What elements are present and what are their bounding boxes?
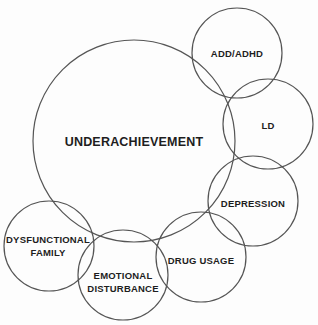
label-line: FAMILY: [6, 246, 90, 259]
depression-label: DEPRESSION: [221, 197, 285, 210]
label-line: UNDERACHIEVEMENT: [65, 135, 204, 149]
label-line: LD: [261, 119, 274, 132]
label-line: ADD/ADHD: [211, 47, 263, 60]
emotional-disturbance-label: EMOTIONAL DISTURBANCE: [87, 269, 158, 295]
underachievement-label: UNDERACHIEVEMENT: [65, 135, 204, 149]
dysfunctional-family-label: DYSFUNCTIONAL FAMILY: [6, 233, 90, 259]
label-line: DISTURBANCE: [87, 282, 158, 295]
label-line: DRUG USAGE: [168, 254, 234, 267]
label-line: DEPRESSION: [221, 197, 285, 210]
diagram-canvas: UNDERACHIEVEMENT ADD/ADHD LD DEPRESSION …: [0, 0, 318, 325]
ld-label: LD: [261, 119, 274, 132]
drug-usage-label: DRUG USAGE: [168, 254, 234, 267]
add-adhd-label: ADD/ADHD: [211, 47, 263, 60]
circles-layer: [0, 0, 318, 325]
label-line: DYSFUNCTIONAL: [6, 233, 90, 246]
label-line: EMOTIONAL: [87, 269, 158, 282]
